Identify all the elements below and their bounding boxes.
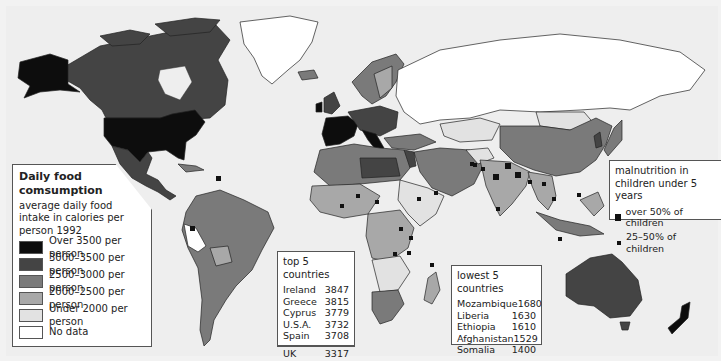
region-southern-africa [372,290,404,324]
value: 1610 [512,321,536,333]
swatch-2500-3000 [19,275,43,288]
country: Somalia [457,344,495,356]
lowest5-table: lowest 5 countries Mozambique1680 Liberi… [451,265,542,345]
country: Afghanistan [457,333,514,345]
country: Liberia [457,310,489,322]
country: Ireland [283,284,316,296]
top5-heading: top 5 countries [283,256,349,281]
country: U.S.A. [283,319,311,331]
country: Ethiopia [457,321,496,333]
swatch-no-data [19,326,43,339]
region-south-america [182,190,274,346]
region-france-spain [322,116,358,146]
swatch-over-3500 [19,241,43,254]
country: UK [283,348,296,360]
table-row: Mozambique1680 [457,298,536,310]
value: 3847 [325,284,349,296]
value: 3708 [325,330,349,342]
table-row: Liberia1630 [457,310,536,322]
region-canada [66,24,230,120]
legend-label: over 50% of children [625,206,716,230]
large-square-icon [615,214,621,221]
country: Cyprus [283,307,316,319]
swatch-3000-3500 [19,258,43,271]
country: Spain [283,330,310,342]
legend-subtitle: average daily food intake in calories pe… [19,200,145,238]
divider [278,345,354,346]
value: 1529 [514,333,538,345]
legend-item: Under 2000 per person [19,309,145,322]
value: 3317 [325,348,349,360]
table-row: Spain3708 [283,330,349,342]
calorie-legend: Daily food comsumption average daily foo… [12,164,152,347]
region-russia [396,34,705,124]
value: 3815 [325,296,349,308]
table-row: Afghanistan1529 [457,333,536,345]
malnutrition-title: malnutrition in children under 5 years [615,165,716,203]
legend-label: Under 2000 per person [49,303,145,328]
region-west-africa [310,184,380,218]
value: 1400 [512,344,536,356]
table-row: Ireland3847 [283,284,349,296]
legend-label: 25–50% of children [626,231,716,255]
value: 1680 [518,298,542,310]
table-row-uk: UK3317 [283,348,349,360]
region-uk [324,92,340,114]
swatch-under-2000 [19,309,43,322]
swatch-2000-2500 [19,292,43,305]
small-square-icon [617,241,621,245]
legend-item: over 50% of children [615,206,716,230]
table-row: Somalia1400 [457,344,536,356]
value: 1630 [512,310,536,322]
table-row: Cyprus3779 [283,307,349,319]
region-new-zealand [668,302,690,334]
region-australia [566,254,642,318]
top5-table: top 5 countries Ireland3847 Greece3815 C… [277,251,355,347]
legend-label: No data [49,326,88,339]
value: 3732 [325,319,349,331]
value: 3779 [325,307,349,319]
lowest5-heading: lowest 5 countries [457,270,536,295]
region-ireland [316,102,322,112]
malnutrition-legend: malnutrition in children under 5 years o… [609,160,721,220]
country: Mozambique [457,298,518,310]
table-row: U.S.A.3732 [283,319,349,331]
legend-item: 25–50% of children [615,231,716,255]
country: Greece [283,296,317,308]
table-row: Greece3815 [283,296,349,308]
table-row: Ethiopia1610 [457,321,536,333]
